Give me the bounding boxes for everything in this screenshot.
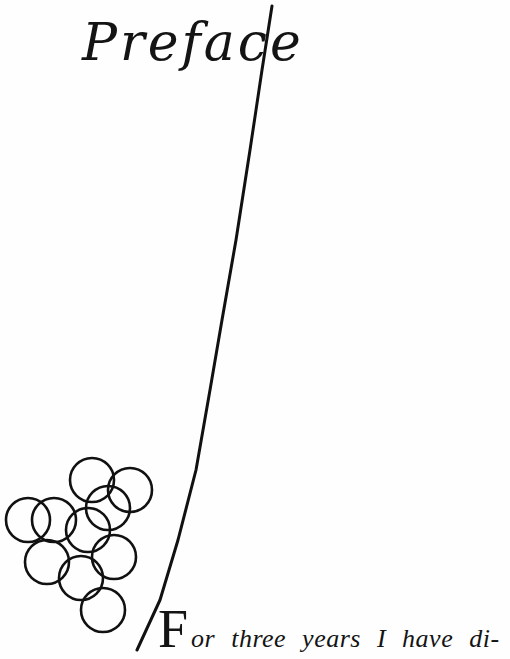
circle-ring bbox=[92, 535, 136, 579]
drop-cap: F bbox=[158, 599, 188, 659]
book-page: Preface For three years I have di- bbox=[0, 0, 510, 659]
circle-ring bbox=[59, 556, 103, 600]
page-illustration bbox=[0, 0, 510, 659]
circle-ring bbox=[25, 540, 69, 584]
diagonal-rule bbox=[137, 6, 272, 650]
opening-paragraph: For three years I have di- bbox=[158, 602, 500, 656]
circle-ring bbox=[81, 588, 125, 632]
circle-ring bbox=[6, 498, 50, 542]
opening-text: or three years I have di- bbox=[191, 624, 500, 653]
circle-cluster bbox=[6, 458, 152, 632]
